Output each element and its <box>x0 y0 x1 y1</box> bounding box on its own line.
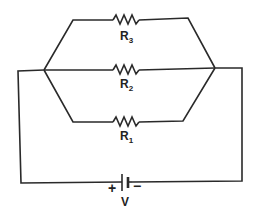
resistor-r2-label: R2 <box>120 77 134 93</box>
branch-r2: R2 <box>44 65 215 93</box>
wire-r1-right <box>139 68 215 122</box>
resistor-r1-symbol <box>113 117 139 126</box>
resistor-r1-label: R1 <box>120 129 134 145</box>
branch-r3: R3 <box>44 15 215 70</box>
wire-r3-right <box>139 18 215 68</box>
wire-r2-right <box>139 68 215 70</box>
wire-r1-left <box>44 70 113 122</box>
battery-label: V <box>121 195 129 209</box>
battery-negative-sign: − <box>133 178 141 194</box>
parallel-circuit-diagram: R3 R2 R1 + − V <box>0 0 254 217</box>
wire-left-outer <box>18 70 122 183</box>
resistor-r2-symbol <box>113 65 139 74</box>
battery-positive-sign: + <box>108 180 116 196</box>
resistor-r3-label: R3 <box>120 29 134 45</box>
resistor-r3-symbol <box>113 15 139 24</box>
wire-r3-left <box>44 20 113 70</box>
branch-r1: R1 <box>44 68 215 145</box>
wire-right-outer <box>132 68 242 182</box>
battery: + − V <box>108 174 141 209</box>
